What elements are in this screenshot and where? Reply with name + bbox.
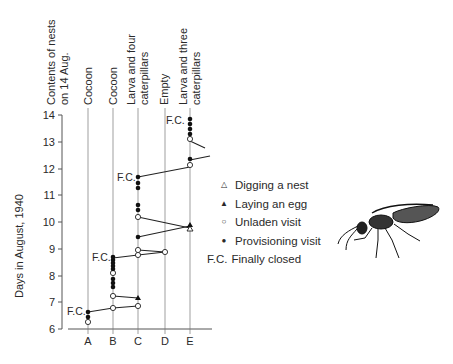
column-header-b: Cocoon bbox=[107, 67, 119, 105]
header-line1: Contents of nests bbox=[45, 19, 57, 105]
y-axis-label: Days in August, 1940 bbox=[13, 194, 25, 298]
legend-label: Provisioning visit bbox=[235, 232, 321, 251]
y-tick-9: 9 bbox=[49, 243, 55, 255]
header-line2: on 14 Aug. bbox=[58, 52, 70, 105]
fc-label-c: F.C. bbox=[117, 171, 136, 183]
filled-triangle-icon: ▲ bbox=[218, 195, 230, 214]
legend-item-finally-closed: F.C. Finally closed bbox=[207, 250, 321, 269]
legend-label: Finally closed bbox=[231, 250, 301, 269]
fc-label-a: F.C. bbox=[67, 305, 86, 317]
nest-a-markers bbox=[85, 310, 90, 325]
y-tick-11: 11 bbox=[44, 189, 55, 201]
y-tick-7: 7 bbox=[49, 296, 55, 308]
y-tick-6: 6 bbox=[49, 323, 55, 335]
column-headers: Contents of nests on 14 Aug. Cocoon Coco… bbox=[45, 19, 202, 105]
column-header-d: Empty bbox=[158, 73, 170, 105]
x-tick-b: B bbox=[109, 335, 116, 347]
chart-legend: △ Digging a nest ▲ Laying an egg ○ Unlad… bbox=[218, 176, 321, 269]
y-axis bbox=[58, 115, 62, 329]
nest-gridlines bbox=[88, 108, 190, 334]
y-tick-14: 14 bbox=[43, 109, 55, 121]
column-header-e-line1: Larva and three bbox=[177, 28, 189, 105]
fc-label-e: F.C. bbox=[166, 114, 185, 126]
x-tick-e: E bbox=[186, 335, 193, 347]
column-header-c-line2: caterpillars bbox=[138, 51, 150, 105]
fc-label-b: F.C. bbox=[92, 251, 111, 263]
legend-label: Laying an egg bbox=[235, 195, 307, 214]
open-circle-icon: ○ bbox=[218, 213, 230, 232]
wasp-illustration bbox=[338, 204, 439, 258]
legend-item-digging: △ Digging a nest bbox=[218, 176, 321, 195]
legend-label: Digging a nest bbox=[235, 176, 309, 195]
y-tick-10: 10 bbox=[43, 216, 55, 228]
x-tick-d: D bbox=[161, 335, 169, 347]
fc-symbol: F.C. bbox=[207, 250, 227, 269]
x-tick-labels: A B C D E bbox=[84, 335, 193, 347]
y-tick-12: 12 bbox=[43, 163, 55, 175]
x-tick-a: A bbox=[84, 335, 92, 347]
legend-item-egg: ▲ Laying an egg bbox=[218, 195, 321, 214]
y-tick-13: 13 bbox=[43, 136, 55, 148]
column-header-e-line2: caterpillars bbox=[190, 51, 202, 105]
legend-item-unladen: ○ Unladen visit bbox=[218, 213, 321, 232]
chart-figure: Contents of nests on 14 Aug. Cocoon Coco… bbox=[0, 0, 453, 364]
column-header-c-line1: Larva and four bbox=[125, 34, 137, 105]
y-tick-8: 8 bbox=[49, 270, 55, 282]
open-triangle-icon: △ bbox=[218, 176, 230, 195]
nest-d-markers bbox=[162, 249, 167, 254]
x-tick-c: C bbox=[134, 335, 142, 347]
filled-circle-icon: ● bbox=[218, 232, 230, 251]
legend-item-provisioning: ● Provisioning visit bbox=[218, 232, 321, 251]
column-header-a: Cocoon bbox=[82, 67, 94, 105]
legend-label: Unladen visit bbox=[235, 213, 301, 232]
y-tick-labels: 14 13 12 11 10 9 8 7 6 bbox=[43, 109, 55, 335]
